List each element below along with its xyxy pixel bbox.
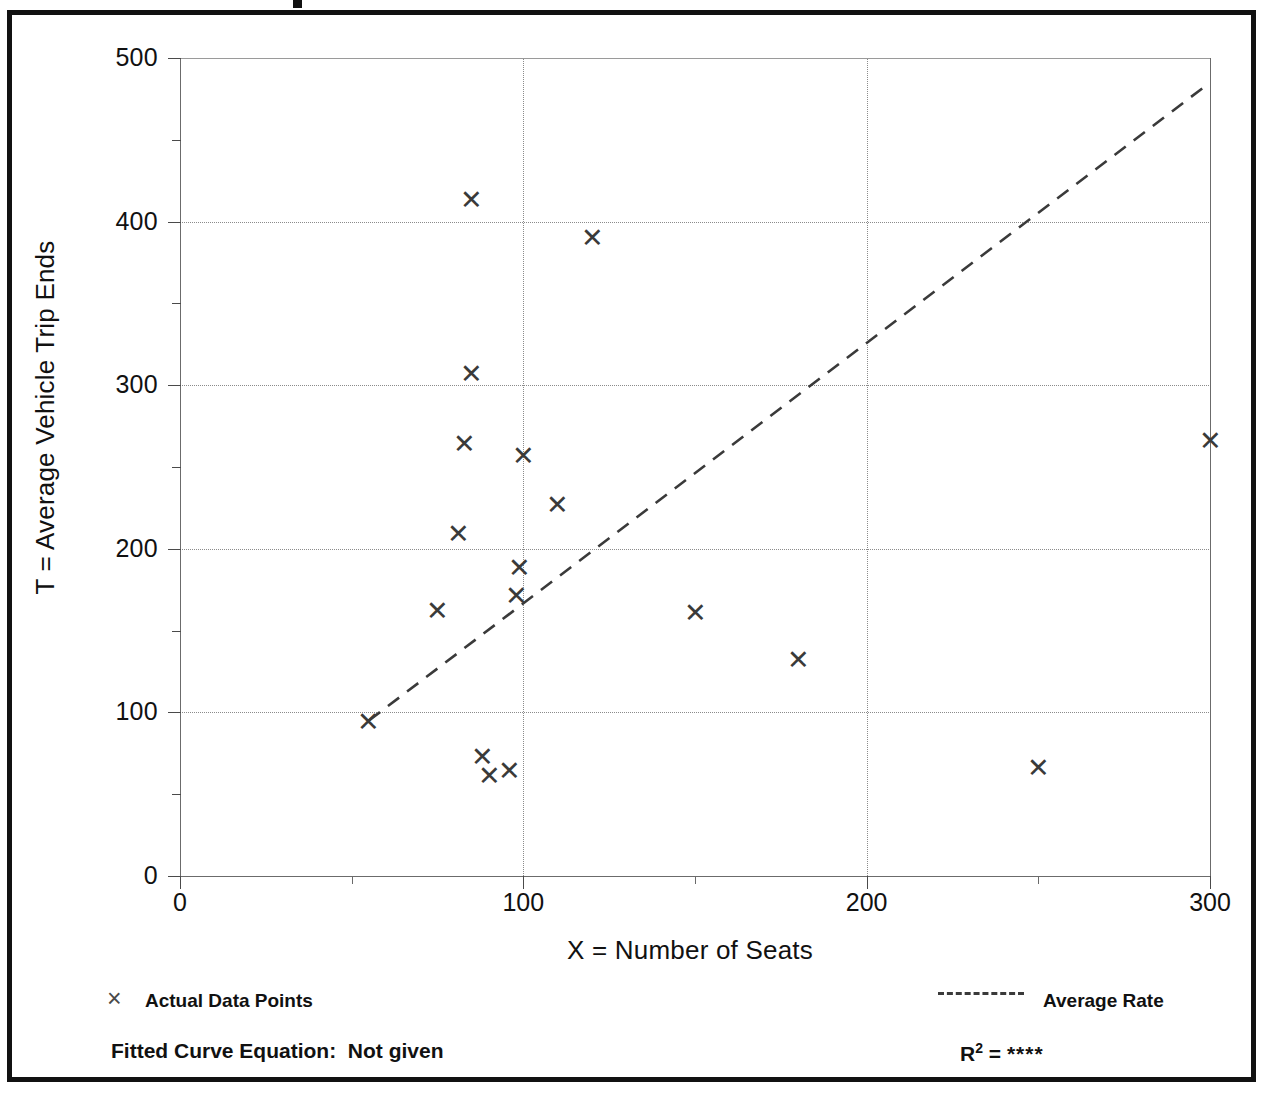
y-tick-minor: [172, 794, 181, 795]
y-tick-label: 0: [38, 861, 158, 890]
data-point-marker: ✕: [453, 431, 476, 458]
data-point-marker: ✕: [498, 758, 521, 785]
x-tick-minor: [1038, 876, 1039, 884]
y-tick-major: [168, 712, 181, 713]
data-point-marker: ✕: [1199, 427, 1222, 454]
y-tick-label: 400: [38, 207, 158, 236]
r-squared-label: R: [960, 1042, 975, 1065]
data-point-marker: ✕: [460, 187, 483, 214]
r-squared-equals: =: [983, 1042, 1007, 1065]
data-point-marker: ✕: [357, 709, 380, 736]
r-squared-value: R2 = ****: [960, 1040, 1044, 1066]
gridline-horizontal: [180, 549, 1211, 550]
data-point-marker: ✕: [512, 442, 535, 469]
x-tick-label: 300: [1165, 888, 1255, 917]
data-point-marker: ✕: [447, 521, 470, 548]
axis-top: [180, 58, 1211, 59]
y-tick-major: [168, 549, 181, 550]
y-tick-major: [168, 222, 181, 223]
y-tick-major: [168, 58, 181, 59]
y-tick-minor: [172, 467, 181, 468]
y-tick-label: 200: [38, 534, 158, 563]
gridline-horizontal: [180, 385, 1211, 386]
y-tick-major: [168, 385, 181, 386]
y-tick-minor: [172, 140, 181, 141]
data-point-marker: ✕: [1027, 755, 1050, 782]
y-tick-label: 100: [38, 697, 158, 726]
y-tick-minor: [172, 303, 181, 304]
x-tick-minor: [352, 876, 353, 884]
x-tick-label: 0: [135, 888, 225, 917]
average-rate-line: [369, 83, 1210, 721]
r-squared-exponent: 2: [975, 1040, 983, 1056]
x-tick-minor: [695, 876, 696, 884]
chart-page: T = Average Vehicle Trip Ends X = Number…: [0, 0, 1270, 1098]
axis-right: [1210, 58, 1211, 876]
data-point-marker: ✕: [581, 224, 604, 251]
y-tick-label: 300: [38, 370, 158, 399]
x-tick-label: 100: [478, 888, 568, 917]
data-point-marker: ✕: [426, 597, 449, 624]
x-axis-title: X = Number of Seats: [330, 935, 1050, 966]
y-tick-minor: [172, 631, 181, 632]
data-point-marker: ✕: [546, 491, 569, 518]
legend-data-label: Actual Data Points: [145, 990, 313, 1012]
y-axis-title: T = Average Vehicle Trip Ends: [30, 168, 61, 668]
y-tick-label: 500: [38, 43, 158, 72]
data-point-marker: ✕: [787, 647, 810, 674]
x-tick-label: 200: [822, 888, 912, 917]
data-point-marker: ✕: [684, 599, 707, 626]
r-squared-stars: ****: [1007, 1042, 1044, 1065]
data-point-marker: ✕: [505, 583, 528, 610]
plot-wrapper: T = Average Vehicle Trip Ends X = Number…: [0, 0, 1270, 1098]
legend-data-marker-icon: ×: [107, 986, 122, 1011]
gridline-vertical: [867, 58, 868, 876]
data-point-marker: ✕: [460, 360, 483, 387]
legend-average-rate-label: Average Rate: [1043, 990, 1164, 1012]
gridline-horizontal: [180, 222, 1211, 223]
fitted-curve-equation: Fitted Curve Equation: Not given: [111, 1039, 444, 1063]
legend-average-rate-line-icon: [938, 992, 1024, 995]
data-point-marker: ✕: [508, 555, 531, 582]
gridline-horizontal: [180, 712, 1211, 713]
data-point-marker: ✕: [478, 763, 501, 790]
